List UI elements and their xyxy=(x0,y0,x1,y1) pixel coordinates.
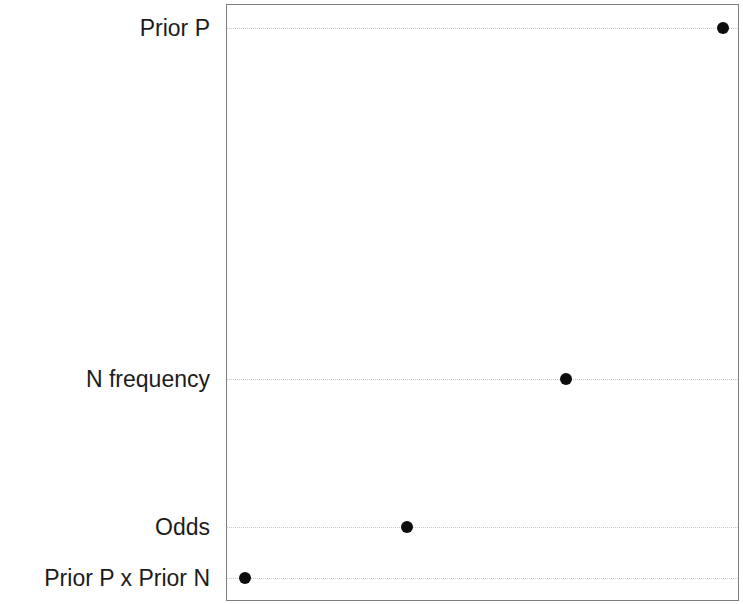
gridline-prior-p xyxy=(227,28,738,29)
gridline-odds xyxy=(227,527,738,528)
data-point-n-frequency[interactable] xyxy=(560,373,572,385)
gridline-n-frequency xyxy=(227,379,738,380)
data-point-odds[interactable] xyxy=(401,521,413,533)
axis-label-prior-p-x-prior-n: Prior P x Prior N xyxy=(0,567,210,590)
data-point-prior-p[interactable] xyxy=(717,22,729,34)
axis-label-n-frequency: N frequency xyxy=(0,368,210,391)
gridline-prior-p-x-prior-n xyxy=(227,578,738,579)
plot-frame xyxy=(227,5,738,600)
axis-label-odds: Odds xyxy=(0,516,210,539)
scatter-chart: Prior P N frequency Odds Prior P x Prior… xyxy=(0,0,743,604)
plot-area xyxy=(226,4,739,601)
axis-label-prior-p: Prior P xyxy=(0,17,210,40)
category-axis-labels: Prior P N frequency Odds Prior P x Prior… xyxy=(0,0,210,604)
data-point-prior-p-x-prior-n[interactable] xyxy=(239,572,251,584)
